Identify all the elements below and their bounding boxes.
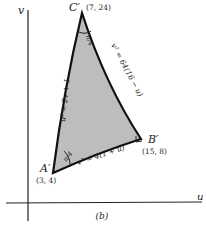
vertex-c-label: C′ — [69, 1, 80, 14]
vertex-a-coords: (3, 4) — [36, 176, 56, 185]
vertex-b-label: B′ — [147, 133, 159, 146]
u-axis-label: u — [197, 191, 203, 202]
vertex-c-coords: (7, 24) — [86, 3, 111, 12]
u-axis — [6, 202, 202, 203]
diagram-canvas: v u C′ (7, 24) A′ (3, 4) B′ (15, 8) v² =… — [0, 0, 206, 228]
figure-caption: (b) — [96, 211, 109, 221]
vertex-a-label: A′ — [39, 162, 51, 175]
curve-bc-equation: v² = 64(16 − u) — [109, 42, 145, 98]
v-axis-label: v — [18, 4, 25, 17]
vertex-b-coords: (15, 8) — [142, 147, 167, 156]
